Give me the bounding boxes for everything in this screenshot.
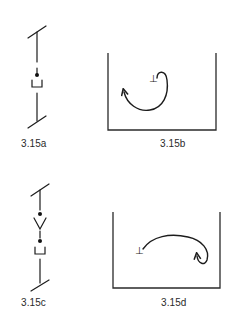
vacancy-cup-icon [35,247,45,254]
dislocation-symbol-icon: ⊥ [149,73,158,84]
panel-a-schematic [28,26,46,128]
panel-d-container: ⊥ [113,212,220,288]
panel-d-label: 3.15d [161,297,187,308]
panel-a-label: 3.15a [21,138,47,149]
panel-b-label: 3.15b [160,138,186,149]
figure-canvas: ⊥ ⊥ [0,0,237,315]
panel-c-label: 3.15c [21,297,46,308]
atom-dot-icon [35,73,39,77]
dislocation-symbol-icon: ⊥ [135,245,144,256]
curved-arrow-path [124,72,167,110]
upper-atom-dot-icon [38,212,42,216]
curved-arrow-path [143,235,208,263]
lower-atom-dot-icon [38,239,42,243]
panel-b-container: ⊥ [108,53,216,130]
v-shape-icon [34,218,46,229]
vacancy-cup-icon [32,80,42,87]
container-box [113,212,220,288]
panel-c-schematic [31,184,49,291]
